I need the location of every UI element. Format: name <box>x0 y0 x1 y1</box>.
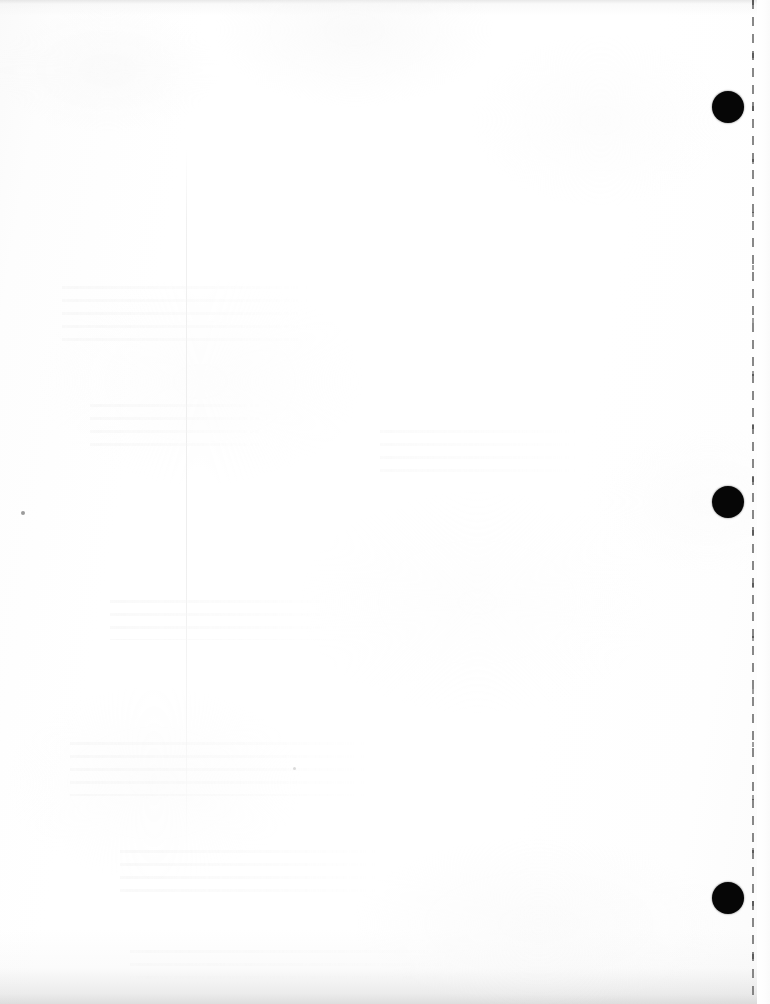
punch-mark-middle <box>712 486 744 518</box>
punch-mark-top <box>712 91 744 123</box>
paper-surface <box>0 0 770 1004</box>
punch-mark-bottom <box>712 882 744 914</box>
scanned-page <box>0 0 770 1004</box>
